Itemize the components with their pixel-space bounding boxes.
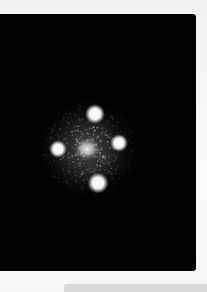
noise-speckle [51, 167, 52, 168]
noise-speckle [83, 135, 84, 136]
noise-speckle [87, 121, 88, 122]
noise-speckle [105, 135, 106, 136]
noise-speckle [42, 154, 43, 155]
noise-speckle [128, 165, 129, 166]
noise-speckle [99, 170, 100, 171]
noise-speckle [93, 171, 94, 172]
noise-speckle [101, 147, 102, 148]
noise-speckle [111, 168, 112, 169]
noise-speckle [107, 141, 108, 142]
noise-speckle [50, 176, 51, 177]
noise-speckle [110, 133, 111, 134]
image-bottom [88, 173, 109, 194]
noise-speckle [123, 172, 124, 173]
noise-speckle [111, 173, 112, 174]
noise-speckle [90, 172, 91, 173]
noise-speckle [104, 155, 105, 156]
noise-speckle [44, 154, 45, 155]
noise-speckle [87, 169, 88, 170]
noise-speckle [74, 113, 75, 114]
noise-speckle [105, 158, 106, 159]
noise-speckle [129, 147, 130, 148]
noise-speckle [79, 165, 80, 166]
noise-speckle [101, 133, 102, 134]
noise-speckle [72, 177, 73, 178]
noise-speckle [81, 119, 82, 120]
noise-speckle [86, 169, 87, 170]
noise-speckle [72, 147, 73, 148]
noise-speckle [107, 191, 108, 192]
noise-speckle [76, 114, 77, 115]
noise-speckle [50, 174, 51, 175]
noise-speckle [53, 160, 54, 161]
noise-speckle [79, 109, 80, 110]
noise-speckle [70, 105, 71, 106]
noise-speckle [117, 121, 118, 122]
noise-speckle [97, 160, 98, 161]
noise-speckle [107, 120, 108, 121]
noise-speckle [90, 167, 91, 168]
noise-speckle [124, 134, 125, 135]
noise-speckle [77, 125, 78, 126]
image-top [85, 104, 105, 124]
noise-speckle [75, 104, 76, 105]
noise-speckle [65, 138, 66, 139]
noise-speckle [71, 157, 72, 158]
noise-speckle [69, 167, 70, 168]
noise-speckle [83, 181, 84, 182]
noise-speckle [126, 179, 127, 180]
image-center [74, 138, 100, 160]
noise-speckle [121, 119, 122, 120]
noise-speckle [80, 162, 81, 163]
noise-speckle [53, 138, 54, 139]
noise-speckle [46, 152, 47, 153]
noise-speckle [81, 159, 82, 160]
noise-speckle [69, 186, 70, 187]
noise-speckle [85, 102, 86, 103]
noise-speckle [63, 157, 64, 158]
noise-speckle [130, 168, 131, 169]
noise-speckle [101, 165, 102, 166]
noise-speckle [57, 177, 58, 178]
noise-speckle [98, 156, 99, 157]
noise-speckle [78, 105, 79, 106]
noise-speckle [89, 136, 90, 137]
astronomical-photo [0, 14, 196, 271]
noise-speckle [68, 179, 69, 180]
noise-speckle [100, 162, 101, 163]
noise-speckle [135, 156, 136, 157]
noise-speckle [80, 176, 81, 177]
noise-speckle [125, 121, 126, 122]
noise-speckle [75, 171, 76, 172]
noise-speckle [115, 173, 116, 174]
bottom-bar [64, 284, 207, 292]
noise-speckle [77, 163, 78, 164]
noise-speckle [99, 165, 100, 166]
noise-speckle [77, 136, 78, 137]
noise-speckle [41, 143, 42, 144]
noise-speckle [74, 130, 75, 131]
noise-speckle [97, 127, 98, 128]
noise-speckle [100, 140, 101, 141]
noise-speckle [71, 185, 72, 186]
noise-speckle [135, 144, 136, 145]
noise-speckle [94, 102, 95, 103]
noise-speckle [81, 188, 82, 189]
noise-speckle [54, 123, 55, 124]
noise-speckle [49, 128, 50, 129]
noise-speckle [72, 135, 73, 136]
noise-speckle [69, 163, 70, 164]
noise-speckle [116, 127, 117, 128]
page [0, 0, 207, 292]
noise-speckle [81, 193, 82, 194]
noise-speckle [66, 133, 67, 134]
noise-speckle [103, 157, 104, 158]
noise-speckle [96, 166, 97, 167]
noise-speckle [96, 137, 97, 138]
noise-speckle [75, 175, 76, 176]
noise-speckle [84, 180, 85, 181]
noise-speckle [71, 131, 72, 132]
image-left [49, 140, 67, 158]
noise-speckle [104, 169, 105, 170]
noise-speckle [91, 128, 92, 129]
